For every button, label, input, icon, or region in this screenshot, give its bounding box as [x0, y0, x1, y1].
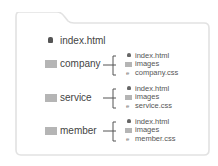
html-file-icon: [127, 53, 131, 57]
folder-icon: [125, 95, 132, 100]
child-label: images: [135, 60, 159, 68]
tree-bracket: [103, 87, 117, 111]
child-label: member.css: [135, 135, 175, 143]
folder-icon: [45, 60, 57, 68]
css-file-icon: e: [126, 103, 129, 109]
css-file-icon: e: [126, 136, 129, 142]
html-file-icon: [127, 119, 131, 123]
folder-label: company: [60, 59, 101, 69]
child-label: service.css: [135, 102, 172, 110]
tree-bracket: [103, 120, 117, 144]
folder-icon: [45, 94, 57, 102]
child-label: images: [135, 93, 159, 101]
folder-icon: [125, 62, 132, 67]
tree-bracket: [103, 54, 117, 78]
root-file-label: index.html: [60, 36, 106, 46]
child-label: images: [135, 126, 159, 134]
folder-label: member: [60, 126, 97, 136]
folder-icon: [125, 128, 132, 133]
folder-label: service: [60, 93, 92, 103]
child-label: company.css: [135, 69, 178, 77]
html-file-icon: [127, 86, 131, 90]
folder-icon: [45, 127, 57, 135]
css-file-icon: e: [126, 70, 129, 76]
html-file-icon: [48, 37, 53, 43]
